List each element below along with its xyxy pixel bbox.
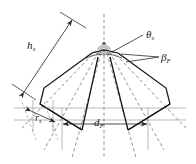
- leader-theta: [112, 35, 143, 52]
- label-beta-f: βF: [161, 52, 171, 63]
- label-h-s-subscript: s: [33, 45, 36, 52]
- leader-beta: [121, 54, 159, 57]
- label-d-f: dF: [94, 117, 104, 128]
- fan-ray-l2: [44, 42, 104, 150]
- label-h-s-symbol: h: [27, 39, 33, 51]
- leader-beta-2: [126, 57, 159, 62]
- label-beta-f-symbol: β: [161, 51, 166, 63]
- figure-canvas: hs θs βF rs dF: [0, 0, 196, 164]
- fan-ray-r2: [104, 42, 164, 150]
- label-d-f-symbol: d: [94, 116, 100, 128]
- label-h-s: hs: [27, 40, 35, 51]
- label-d-f-subscript: F: [100, 122, 104, 129]
- wedge-right: [110, 57, 128, 130]
- dimension-h: [12, 12, 86, 100]
- label-beta-f-subscript: F: [167, 57, 171, 64]
- diagram-svg: [0, 0, 196, 164]
- label-theta-s-symbol: θ: [146, 28, 151, 40]
- label-theta-s: θs: [146, 29, 154, 40]
- label-r-s-subscript: s: [39, 117, 41, 124]
- dimension-h-line: [24, 20, 72, 92]
- label-r-s: rs: [35, 113, 41, 123]
- beam-outline: [40, 50, 170, 130]
- label-theta-s-subscript: s: [152, 34, 155, 41]
